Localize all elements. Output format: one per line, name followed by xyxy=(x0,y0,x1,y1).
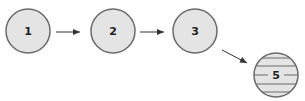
node-2: 2 xyxy=(91,9,135,53)
node-3-label: 3 xyxy=(191,25,199,38)
node-5-striped: 5 xyxy=(250,53,302,97)
flow-diagram: 1 2 3 5 xyxy=(0,0,305,101)
arrow-3-to-5 xyxy=(222,50,247,63)
node-1-label: 1 xyxy=(24,25,32,38)
node-1: 1 xyxy=(6,9,50,53)
node-3: 3 xyxy=(173,9,217,53)
node-5-label: 5 xyxy=(272,69,280,82)
node-2-label: 2 xyxy=(109,25,117,38)
